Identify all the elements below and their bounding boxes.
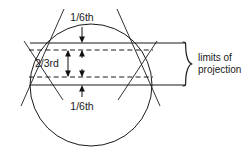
limits-note-line1: limits of <box>198 52 232 63</box>
inner-upper-arrowhead <box>79 50 85 57</box>
limits-brace <box>183 42 192 86</box>
middle-fraction-label: 2/3rd <box>35 57 59 69</box>
bottom-fraction-label: 1/6th <box>70 100 94 112</box>
projection-limits-diagram: 1/6th 2/3rd 1/6th limits of projection <box>0 0 251 153</box>
top-fraction-arrowhead <box>79 36 85 43</box>
bottom-fraction-arrowhead <box>79 85 85 92</box>
middle-fraction-arrowhead-down <box>65 70 71 77</box>
middle-fraction-arrowhead-up <box>65 50 71 57</box>
limits-note-line2: projection <box>198 64 241 75</box>
inner-lower-arrowhead <box>79 70 85 77</box>
diagram-canvas: 1/6th 2/3rd 1/6th limits of projection <box>0 0 251 153</box>
top-fraction-label: 1/6th <box>70 11 94 23</box>
